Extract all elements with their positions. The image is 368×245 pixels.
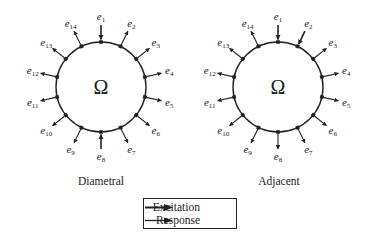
electrode-label: e3 — [329, 36, 338, 50]
electrode-label: e7 — [304, 143, 313, 157]
diametral-diagram: Ωe1e2e3e4e5e6e7e8e9e10e11e12e13e14 — [27, 10, 174, 164]
excitation-arrow — [299, 31, 305, 44]
electrode-label: e8 — [274, 150, 283, 164]
response-arrow — [218, 73, 233, 76]
response-arrow — [251, 31, 258, 45]
electrode-label: e6 — [329, 124, 338, 138]
response-arrow — [314, 116, 326, 126]
electrode-pad — [276, 130, 280, 134]
electrode-pad — [99, 130, 103, 134]
excitation-arrow-icon — [144, 200, 174, 214]
electrode-label: e9 — [243, 143, 252, 157]
electrode-label: e1 — [97, 10, 106, 24]
response-arrow — [230, 48, 242, 58]
electrode-pad — [55, 95, 59, 99]
response-arrow — [121, 31, 128, 45]
response-arrow — [53, 116, 65, 126]
electrode-label: e14 — [65, 17, 77, 31]
electrode-pad — [55, 75, 59, 79]
electrode-label: e5 — [165, 96, 174, 110]
electrode-pad — [320, 75, 324, 79]
response-arrow — [121, 129, 128, 143]
electrode-label: e13 — [40, 36, 52, 50]
electrode-pad — [143, 75, 147, 79]
response-arrow — [218, 97, 233, 100]
electrode-label: e7 — [127, 143, 136, 157]
response-arrow — [74, 129, 81, 143]
response-arrow — [323, 97, 338, 100]
response-arrow — [146, 73, 161, 76]
response-arrow — [41, 97, 56, 100]
response-arrow — [230, 116, 242, 126]
electrode-pad — [276, 40, 280, 44]
electrode-label: e8 — [97, 150, 106, 164]
response-arrow — [53, 48, 65, 58]
electrode-pad — [118, 125, 123, 130]
adjacent-diagram: Ωe1e2e3e4e5e6e7e8e9e10e11e12e13e14 — [204, 10, 351, 164]
response-arrow — [41, 73, 56, 76]
legend-excitation: Excitation — [144, 200, 236, 214]
electrode-pad — [295, 44, 300, 49]
diametral-caption: Diametral — [78, 175, 124, 187]
electrode-label: e4 — [165, 64, 174, 78]
electrode-label: e5 — [342, 96, 351, 110]
electrode-label: e9 — [66, 143, 75, 157]
electrode-pad — [118, 44, 123, 49]
electrode-pad — [320, 95, 324, 99]
electrode-pad — [295, 125, 300, 130]
electrode-label: e11 — [27, 96, 39, 110]
electrode-label: e13 — [217, 36, 229, 50]
legend-response: Response — [144, 213, 236, 227]
electrode-pad — [79, 44, 84, 49]
response-arrow — [137, 116, 149, 126]
electrode-label: e12 — [204, 64, 216, 78]
electrode-label: e11 — [204, 96, 216, 110]
electrode-pad — [256, 125, 261, 130]
electrode-label: e14 — [242, 17, 254, 31]
response-arrow — [314, 48, 326, 58]
response-arrow-icon — [144, 213, 174, 227]
electrode-pad — [232, 75, 236, 79]
response-arrow — [146, 97, 161, 100]
electrode-pad — [256, 44, 261, 49]
electrode-pad — [79, 125, 84, 130]
electrode-label: e6 — [152, 124, 161, 138]
electrode-label: e10 — [40, 124, 52, 138]
electrode-label: e2 — [127, 17, 136, 31]
electrode-label: e4 — [342, 64, 351, 78]
adjacent-caption: Adjacent — [258, 175, 300, 188]
response-arrow — [323, 73, 338, 76]
domain-symbol: Ω — [94, 76, 109, 98]
response-arrow — [74, 31, 81, 45]
electrode-label: e1 — [274, 10, 283, 24]
domain-symbol: Ω — [271, 76, 286, 98]
electrode-pad — [143, 95, 147, 99]
electrode-label: e10 — [217, 124, 229, 138]
response-arrow — [298, 129, 305, 143]
electrode-pad — [232, 95, 236, 99]
electrode-label: e2 — [304, 17, 313, 31]
response-arrow — [137, 48, 149, 58]
electrode-label: e12 — [27, 64, 39, 78]
electrode-label: e3 — [152, 36, 161, 50]
legend: Excitation Response — [143, 198, 237, 229]
response-arrow — [251, 129, 258, 143]
electrode-pad — [99, 40, 103, 44]
